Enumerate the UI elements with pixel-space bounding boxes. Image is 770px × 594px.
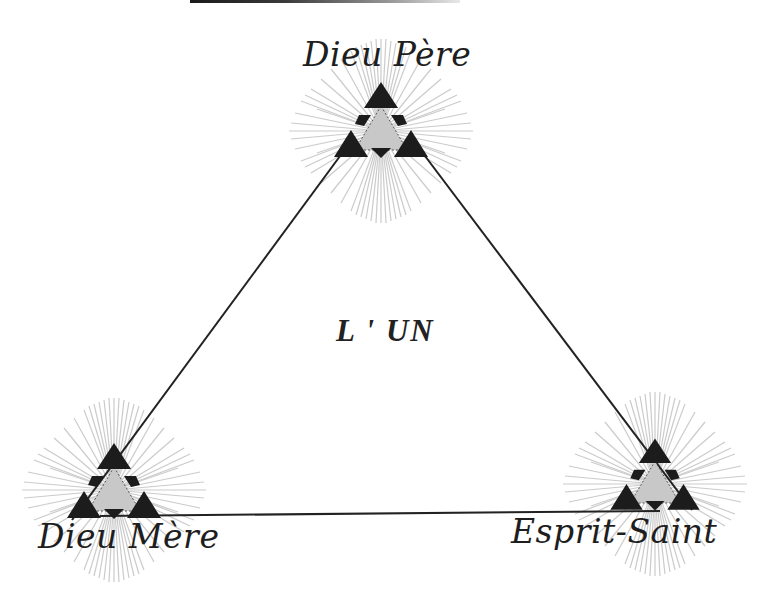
node-label-dieu-pere: Dieu Père [303, 38, 471, 71]
radiant-triangle-icon-bottom-left [67, 443, 161, 519]
radiant-triangle-icon-bottom-right [610, 438, 699, 510]
trinity-diagram [0, 0, 770, 594]
node-label-dieu-mere: Dieu Mère [38, 520, 219, 553]
node-label-esprit-saint: Esprit-Saint [511, 515, 717, 548]
center-label-l-un: L ' UN [336, 315, 435, 346]
